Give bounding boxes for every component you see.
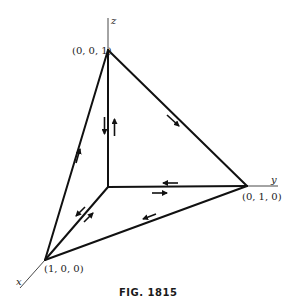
y-axis-label: y <box>270 174 277 185</box>
z-axis-label: z <box>110 15 117 26</box>
tetrahedron-diagram: z y x (0, 0, 1) (0, 1, 0) (1, 0, 0) FIG.… <box>0 0 288 304</box>
edge-x-y <box>45 186 247 260</box>
vertex-x-label: (1, 0, 0) <box>44 263 84 274</box>
arrow-down-left-icon <box>143 214 156 219</box>
tetrahedron-edges <box>45 50 247 260</box>
vertex-z-label: (0, 0, 1) <box>72 45 112 56</box>
figure-caption: FIG. 1815 <box>119 287 177 298</box>
vertex-y-label: (0, 1, 0) <box>242 191 282 202</box>
edge-x-z <box>45 50 108 260</box>
edge-origin-y <box>108 186 247 187</box>
edge-z-y <box>108 50 247 186</box>
x-axis <box>20 260 45 288</box>
x-axis-label: x <box>16 276 22 287</box>
